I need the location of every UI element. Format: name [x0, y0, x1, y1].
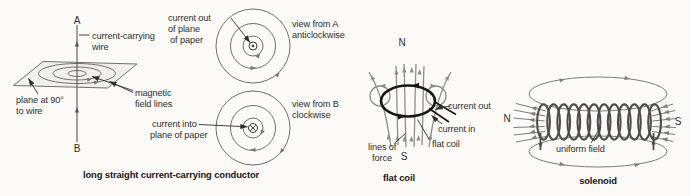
- current-into-label-line1: current into: [152, 119, 197, 129]
- wire-current-arrow: [75, 107, 79, 113]
- field-lines-pointer-arrow: [110, 82, 134, 93]
- straight-conductor-caption: long straight current-carrying conductor: [83, 169, 260, 180]
- view-from-a-diagram: current out of plane of paper view from …: [168, 9, 345, 83]
- uniform-field-label: uniform field: [556, 144, 605, 154]
- field-arrow: [369, 74, 375, 81]
- view-a-label-line2: anticlockwise: [292, 30, 345, 40]
- flat-coil-diagram: N S current out current in flat coil lin…: [368, 37, 491, 183]
- field-loop-arrow: [431, 84, 437, 88]
- south-pole-label: S: [401, 151, 408, 162]
- field-arrow: [663, 110, 669, 115]
- fan-field-line: [653, 119, 677, 122]
- straight-conductor-diagram: A B current-carrying wire plane at 90° t…: [14, 15, 260, 180]
- current-out-pointer-arrow: [231, 18, 250, 43]
- solenoid-caption: solenoid: [579, 175, 617, 186]
- plane-label-line2: to wire: [16, 106, 42, 116]
- fan-field-line: [653, 127, 677, 128]
- lead-current-arrow: [538, 143, 542, 149]
- fan-field-line: [514, 127, 545, 128]
- field-line: [414, 64, 416, 147]
- current-out-label-line1: current out: [168, 13, 211, 23]
- current-into-label-line2: plane of paper: [150, 130, 207, 140]
- field-arrow: [530, 105, 536, 110]
- fan-field-line: [652, 132, 675, 135]
- field-arrow: [394, 69, 398, 75]
- current-into-pointer-arrow: [199, 125, 248, 127]
- current-out-dot: [252, 45, 255, 48]
- field-arrow: [661, 104, 668, 110]
- fan-field-line: [514, 118, 545, 121]
- field-arrow: [395, 135, 399, 141]
- field-arrow: [664, 117, 670, 122]
- field-arrow: [445, 74, 451, 81]
- current-direction-arrow: [398, 114, 405, 120]
- current-out-label: current out: [448, 101, 491, 111]
- field-arrow: [559, 162, 565, 167]
- south-pole-label: S: [675, 116, 682, 127]
- field-label-line1: magnetic: [135, 88, 172, 98]
- field-arrow: [529, 130, 535, 135]
- clockwise-arrow: [250, 148, 256, 153]
- field-arrow: [634, 162, 640, 167]
- fan-field-line: [652, 111, 675, 117]
- field-arrow: [559, 77, 565, 82]
- physics-textbook-figure: A B current-carrying wire plane at 90° t…: [0, 0, 691, 196]
- current-out-label-line3: of paper: [170, 35, 203, 45]
- flat-coil-label: flat coil: [432, 139, 460, 149]
- field-loop-arrow: [380, 84, 386, 88]
- field-arrow: [410, 67, 414, 73]
- plane-label-line1: plane at 90°: [16, 95, 64, 105]
- field-arrow: [402, 67, 406, 73]
- view-b-label-line2: clockwise: [292, 110, 330, 120]
- north-pole-label: N: [503, 113, 510, 124]
- coil-lead: [429, 109, 449, 123]
- field-arrow: [409, 136, 413, 142]
- view-from-b-diagram: current into plane of paper view from B …: [150, 91, 339, 165]
- fan-field-line: [514, 110, 545, 116]
- current-out-label-line2: of plane: [168, 24, 200, 34]
- north-pole-label: N: [398, 37, 405, 48]
- solenoid-diagram: N S uniform field solenoid: [503, 76, 681, 186]
- field-label-line2: field lines: [135, 99, 173, 109]
- anticlockwise-arrow: [250, 66, 256, 71]
- view-a-label-line1: view from A: [292, 19, 339, 29]
- point-b-label: B: [74, 143, 81, 154]
- field-arrow: [529, 118, 535, 123]
- field-arrow: [529, 111, 535, 116]
- lines-of-force-label-line2: force: [372, 153, 392, 163]
- flat-coil-caption: flat coil: [383, 172, 415, 183]
- lines-of-force-label-line1: lines of: [368, 142, 397, 152]
- current-in-label: current in: [438, 124, 475, 134]
- field-arrow: [663, 130, 669, 135]
- wire-label-line1: current-carrying: [92, 31, 155, 41]
- clockwise-arrow: [258, 129, 265, 136]
- figure-canvas: A B current-carrying wire plane at 90° t…: [0, 0, 691, 196]
- field-arrow: [664, 124, 670, 128]
- view-b-label-line1: view from B: [292, 99, 339, 109]
- point-a-label: A: [74, 15, 81, 26]
- wire-label-line2: wire: [91, 42, 108, 52]
- field-arrow: [529, 124, 535, 128]
- field-line: [422, 66, 424, 145]
- wire-current-arrow: [75, 41, 79, 47]
- field-arrow: [416, 135, 420, 141]
- field-line: [396, 66, 398, 145]
- field-arrow: [417, 69, 421, 75]
